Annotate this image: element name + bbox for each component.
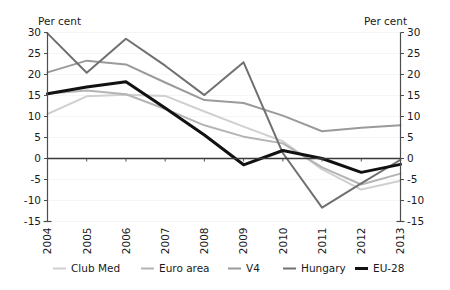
y-tick-label-left: 5 xyxy=(34,131,41,143)
x-tick-label-2004: 2004 xyxy=(41,227,53,254)
legend-label-v4: V4 xyxy=(246,262,260,274)
x-tick-label-2008: 2008 xyxy=(198,228,210,255)
y-tick-label-right: 20 xyxy=(407,68,420,80)
series-layer xyxy=(48,33,401,207)
y-tick-label-right: 0 xyxy=(407,152,414,164)
y-axis-right-ticks: -15-10-5051015202530 xyxy=(407,26,424,227)
x-axis-ticks: 2004200520062007200820092010201120122013 xyxy=(41,227,406,254)
y-tick-label-left: -5 xyxy=(31,173,41,185)
y-tick-label-left: -10 xyxy=(24,194,41,206)
legend-label-euro-area: Euro area xyxy=(159,262,210,274)
x-tick-label-2011: 2011 xyxy=(316,228,328,255)
y-tick-label-left: 25 xyxy=(28,47,41,59)
y-tick-label-right: -15 xyxy=(407,215,424,227)
y-tick-label-right: 15 xyxy=(407,89,420,101)
x-tick-label-2013: 2013 xyxy=(394,228,406,255)
x-tick-label-2012: 2012 xyxy=(355,228,367,255)
y-tick-label-right: -5 xyxy=(407,173,417,185)
y-tick-label-right: 5 xyxy=(407,131,414,143)
y-tick-label-right: 25 xyxy=(407,47,420,59)
x-tick-label-2005: 2005 xyxy=(81,228,93,255)
y-tick-label-left: 0 xyxy=(34,152,41,164)
legend-label-hungary: Hungary xyxy=(301,262,346,274)
y-tick-label-left: 20 xyxy=(28,68,41,80)
y-tick-label-right: -10 xyxy=(407,194,424,206)
x-tick-label-2009: 2009 xyxy=(237,228,249,255)
chart-canvas: -15-10-5051015202530 -15-10-505101520253… xyxy=(0,0,450,290)
y-tick-label-left: 30 xyxy=(28,26,41,38)
y-axis-left-ticks: -15-10-5051015202530 xyxy=(24,26,41,227)
x-tick-label-2010: 2010 xyxy=(277,228,289,255)
y-tick-label-right: 10 xyxy=(407,110,420,122)
x-tick-label-2007: 2007 xyxy=(159,228,171,255)
chart-legend: Club MedEuro areaV4HungaryEU-28 xyxy=(53,262,404,274)
y-tick-label-left: -15 xyxy=(24,215,41,227)
y-axis-left-unit-label: Per cent xyxy=(38,15,81,27)
series-line-club-med xyxy=(48,95,401,190)
y-tick-label-right: 30 xyxy=(407,26,420,38)
line-chart: -15-10-5051015202530 -15-10-505101520253… xyxy=(0,0,450,290)
x-tick-label-2006: 2006 xyxy=(120,227,132,254)
legend-label-eu-28: EU-28 xyxy=(373,262,404,274)
y-tick-label-left: 10 xyxy=(28,110,41,122)
legend-label-club-med: Club Med xyxy=(71,262,120,274)
y-axis-right-unit-label: Per cent xyxy=(364,15,407,27)
y-tick-label-left: 15 xyxy=(28,89,41,101)
